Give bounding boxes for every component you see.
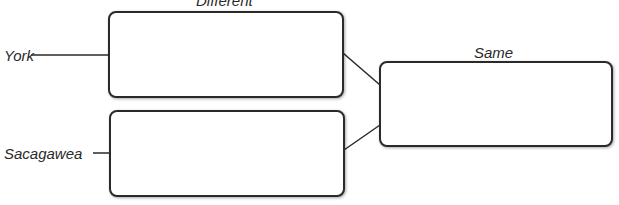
different-heading: Different (196, 0, 253, 9)
same-box[interactable] (379, 61, 613, 147)
sacagawea-different-box[interactable] (109, 110, 345, 197)
sacagawea-label: Sacagawea (4, 145, 82, 162)
york-different-box[interactable] (108, 11, 344, 98)
york-label: York (4, 47, 34, 64)
same-heading: Same (474, 44, 513, 61)
